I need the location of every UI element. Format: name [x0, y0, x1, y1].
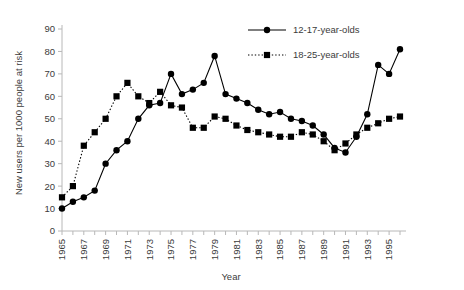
data-point	[353, 131, 359, 137]
data-point	[266, 111, 272, 117]
x-tick-label: 1985	[274, 239, 285, 260]
data-point	[190, 125, 196, 131]
data-point	[320, 131, 326, 137]
data-point	[81, 143, 87, 149]
data-point	[124, 138, 130, 144]
data-point	[364, 111, 370, 117]
x-tick-label: 1995	[383, 239, 394, 260]
data-point	[266, 131, 272, 137]
data-point	[81, 194, 87, 200]
y-tick-label: 90	[44, 23, 55, 34]
y-tick-label: 60	[44, 91, 55, 102]
line-chart: 0102030405060708090 19651967196919711973…	[0, 0, 464, 290]
y-tick-label: 30	[44, 158, 55, 169]
x-tick-label: 1973	[144, 239, 155, 260]
y-tick-label: 10	[44, 203, 55, 214]
legend-label: 18-25-year-olds	[293, 49, 360, 60]
data-point	[201, 80, 207, 86]
data-point	[397, 113, 403, 119]
y-tick-label: 70	[44, 68, 55, 79]
y-axis-title: New users per 1000 people at risk	[13, 51, 24, 195]
data-point	[277, 134, 283, 140]
data-point	[288, 116, 294, 122]
data-point	[310, 131, 316, 137]
x-tick-label: 1993	[362, 239, 373, 260]
data-point	[157, 100, 163, 106]
x-tick-label: 1977	[187, 239, 198, 260]
data-point	[244, 127, 250, 133]
y-tick-label: 50	[44, 113, 55, 124]
data-point	[179, 91, 185, 97]
x-tick-label: 1979	[209, 239, 220, 260]
data-point	[397, 46, 403, 52]
data-point	[124, 80, 130, 86]
data-point	[364, 125, 370, 131]
data-point	[310, 122, 316, 128]
x-tick-label: 1967	[78, 239, 89, 260]
legend-marker	[264, 52, 270, 58]
x-tick-label: 1965	[56, 239, 67, 260]
data-point	[135, 93, 141, 99]
data-point	[288, 134, 294, 140]
x-tick-label: 1983	[253, 239, 264, 260]
x-axis-title: Year	[221, 271, 240, 282]
data-point	[386, 71, 392, 77]
data-point	[168, 71, 174, 77]
chart-container: 0102030405060708090 19651967196919711973…	[0, 0, 464, 290]
data-point	[59, 194, 65, 200]
y-tick-label: 0	[50, 225, 55, 236]
data-point	[70, 199, 76, 205]
x-tick-label: 1971	[122, 239, 133, 260]
data-point	[244, 100, 250, 106]
y-tick-label: 20	[44, 181, 55, 192]
data-point	[255, 107, 261, 113]
x-tick-label: 1989	[318, 239, 329, 260]
x-tick-label: 1991	[340, 239, 351, 260]
data-point	[255, 129, 261, 135]
data-point	[113, 93, 119, 99]
data-point	[386, 116, 392, 122]
data-point	[299, 118, 305, 124]
data-point	[146, 100, 152, 106]
x-tick-label: 1981	[231, 239, 242, 260]
data-point	[92, 129, 98, 135]
data-point	[222, 91, 228, 97]
data-point	[222, 116, 228, 122]
legend-marker	[264, 27, 270, 33]
data-point	[375, 120, 381, 126]
data-point	[375, 62, 381, 68]
data-point	[157, 89, 163, 95]
x-tick-label: 1975	[165, 239, 176, 260]
data-point	[135, 116, 141, 122]
data-point	[92, 187, 98, 193]
data-point	[342, 140, 348, 146]
data-point	[59, 205, 65, 211]
data-point	[233, 95, 239, 101]
x-tick-label: 1987	[296, 239, 307, 260]
data-point	[103, 116, 109, 122]
data-point	[168, 102, 174, 108]
data-point	[331, 147, 337, 153]
data-point	[70, 183, 76, 189]
data-point	[201, 125, 207, 131]
y-tick-label: 80	[44, 46, 55, 57]
y-tick-label: 40	[44, 136, 55, 147]
legend-label: 12-17-year-olds	[293, 24, 360, 35]
data-point	[179, 104, 185, 110]
data-point	[102, 160, 108, 166]
data-point	[211, 53, 217, 59]
data-point	[342, 149, 348, 155]
data-point	[321, 138, 327, 144]
data-point	[190, 86, 196, 92]
data-point	[277, 109, 283, 115]
data-point	[233, 122, 239, 128]
data-point	[212, 113, 218, 119]
x-tick-label: 1969	[100, 239, 111, 260]
data-point	[113, 147, 119, 153]
data-point	[299, 129, 305, 135]
